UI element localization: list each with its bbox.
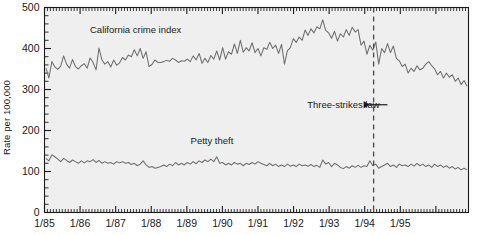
x-tick-label: 1/92 [283,217,304,229]
x-tick-label: 1/91 [248,217,269,229]
x-tick-label: 1/93 [319,217,340,229]
y-tick-label: 500 [22,1,40,13]
y-tick-label: 300 [22,83,40,95]
x-tick-label: 1/95 [390,217,411,229]
x-tick-label: 1/87 [105,217,126,229]
x-tick-label: 1/88 [141,217,162,229]
x-tick-label: 1/94 [355,217,376,229]
california-crime-index-label: California crime index [90,24,182,35]
x-tick-label: 1/90 [212,217,233,229]
plot-background [45,8,469,213]
x-tick-label: 1/85 [34,217,55,229]
y-axis-label: Rate per 100,000 [0,0,14,235]
crime-index-chart-figure: Rate per 100,000 01002003004005001/851/8… [0,0,478,235]
y-tick-label: 400 [22,42,40,54]
petty-theft-label: Petty theft [191,135,234,146]
petty-theft-label-text: Petty theft [191,135,234,146]
y-tick-label: 200 [22,124,40,136]
x-tick-label: 1/89 [177,217,198,229]
three-strikes-law-label: Three-strikes law [307,99,387,110]
california-crime-index-label-text: California crime index [90,24,182,35]
y-tick-label: 100 [22,165,40,177]
chart-svg: 01002003004005001/851/861/871/881/891/90… [0,0,478,235]
x-tick-label: 1/86 [70,217,91,229]
